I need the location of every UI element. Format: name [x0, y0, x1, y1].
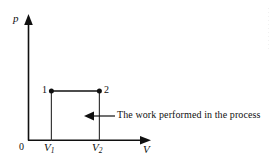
- state-point-2-marker: [97, 89, 102, 94]
- origin-label: 0: [19, 142, 24, 152]
- x-tick-label-v1: V1: [44, 142, 54, 155]
- state-point-2-label: 2: [104, 85, 109, 95]
- p-axis-arrowhead: [24, 14, 33, 25]
- x-tick-label-v2: V2: [92, 142, 102, 155]
- diagram-canvas: [0, 0, 275, 163]
- pv-diagram-figure: p V 0 V1 V2 1 2 The work performed in th…: [0, 0, 275, 163]
- state-point-1-label: 1: [42, 85, 47, 95]
- x-tick-v2-subscript: 2: [99, 146, 103, 155]
- work-annotation-text: The work performed in the process: [117, 110, 261, 120]
- x-tick-v1-base: V: [44, 141, 51, 153]
- state-point-1-marker: [49, 89, 54, 94]
- x-tick-v2-base: V: [92, 141, 99, 153]
- left-arrow-icon: [84, 112, 94, 121]
- x-tick-v1-subscript: 1: [51, 146, 55, 155]
- p-axis: [24, 14, 33, 141]
- p-axis-label: p: [13, 13, 19, 24]
- v-axis-label: V: [143, 144, 150, 155]
